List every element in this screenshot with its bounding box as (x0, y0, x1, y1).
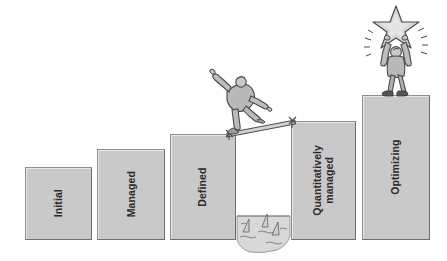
shark-water-icon (237, 214, 290, 253)
bar-managed-label-wrap: Managed (98, 150, 164, 239)
tightrope-walker-icon (210, 69, 272, 134)
bar-quantitatively-managed-label: Quantitatively managed (311, 145, 336, 216)
bar-defined-label: Defined (197, 167, 209, 206)
bar-initial: Initial (25, 167, 92, 240)
bar-defined: Defined (170, 134, 236, 240)
sparkle-lines-right (418, 28, 428, 54)
maturity-staircase-figure: Initial Managed Defined Quantitatively m… (0, 0, 447, 261)
bar-initial-label-wrap: Initial (26, 168, 91, 239)
bar-initial-label: Initial (52, 189, 64, 217)
star-holder-icon (364, 6, 428, 96)
bar-optimizing-label: Optimizing (390, 140, 402, 195)
bar-quantitatively-managed-label-wrap: Quantitatively managed (292, 122, 355, 239)
plank-bridge-icon (226, 117, 296, 140)
bar-optimizing-label-wrap: Optimizing (363, 96, 429, 239)
star-icon (373, 6, 419, 48)
bar-optimizing: Optimizing (362, 95, 430, 240)
bar-defined-label-wrap: Defined (171, 135, 235, 239)
bar-quantitatively-managed: Quantitatively managed (291, 121, 356, 240)
bar-managed-label: Managed (125, 171, 137, 217)
sparkle-lines-left (364, 30, 373, 56)
bar-managed: Managed (97, 149, 165, 240)
